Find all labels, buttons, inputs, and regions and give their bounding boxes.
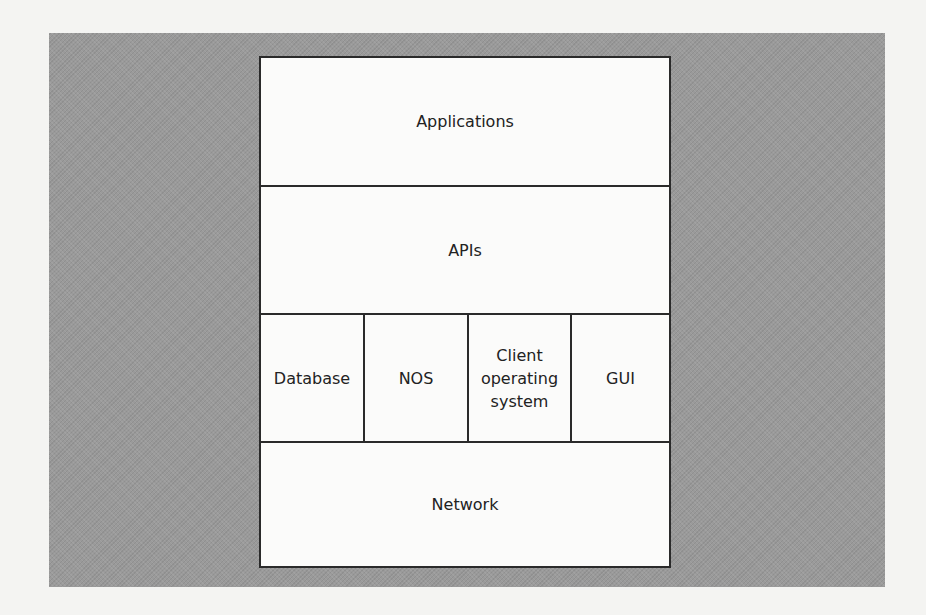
layer-middleware-components: Database NOS Client operating system GUI — [261, 313, 669, 441]
layer-apis-label: APIs — [448, 239, 482, 262]
component-nos-label: NOS — [399, 367, 434, 390]
layer-applications: Applications — [261, 58, 669, 185]
layer-network: Network — [261, 441, 669, 566]
layer-network-label: Network — [432, 493, 499, 516]
layer-applications-label: Applications — [416, 110, 514, 133]
component-database: Database — [261, 315, 363, 441]
component-client-os-label: Client operating system — [481, 344, 558, 413]
component-client-os: Client operating system — [467, 315, 570, 441]
layer-apis: APIs — [261, 185, 669, 313]
component-nos: NOS — [363, 315, 467, 441]
architecture-stack: Applications APIs Database NOS Client op… — [259, 56, 671, 568]
component-gui-label: GUI — [606, 367, 635, 390]
component-gui: GUI — [570, 315, 669, 441]
component-database-label: Database — [274, 367, 350, 390]
